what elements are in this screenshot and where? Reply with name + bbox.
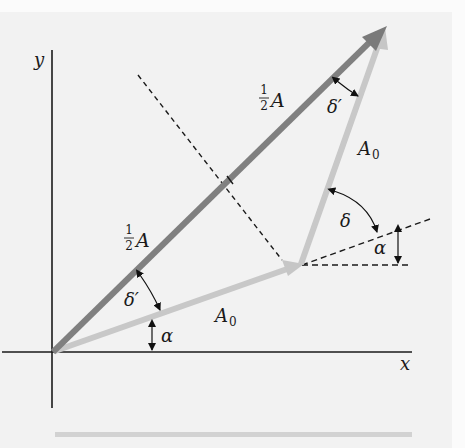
background-panel xyxy=(0,12,452,448)
y-axis-label: y xyxy=(33,49,45,70)
label-alpha-lower: α xyxy=(161,325,173,346)
x-axis-label: x xyxy=(400,353,410,374)
svg-text:0: 0 xyxy=(372,148,380,162)
label-delta: δ xyxy=(340,210,351,231)
svg-text:A: A xyxy=(356,138,371,159)
svg-text:A: A xyxy=(134,229,150,251)
svg-text:1: 1 xyxy=(125,223,133,237)
label-delta-prime-lower: δ′ xyxy=(124,289,139,310)
svg-text:1: 1 xyxy=(260,83,268,97)
svg-text:2: 2 xyxy=(260,99,268,113)
label-delta-prime-upper: δ′ xyxy=(327,96,342,117)
label-alpha-upper: α xyxy=(374,237,386,258)
svg-text:A: A xyxy=(269,89,285,111)
svg-text:2: 2 xyxy=(125,239,133,253)
svg-text:A: A xyxy=(213,305,228,326)
bottom-bar xyxy=(55,432,412,437)
svg-text:0: 0 xyxy=(229,315,237,329)
phasor-diagram: y x 1 2 A 1 2 A A 0 A 0 α xyxy=(0,0,465,448)
